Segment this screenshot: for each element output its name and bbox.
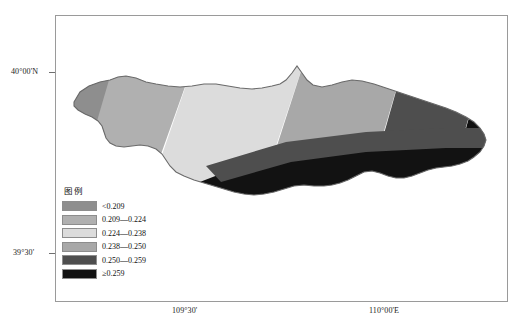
- legend-swatch-2: [62, 215, 97, 225]
- legend-swatch-5: [62, 255, 97, 265]
- legend-item: <0.209: [62, 200, 170, 212]
- legend-label-6: ≥0.259: [102, 269, 124, 278]
- legend-swatch-3: [62, 228, 97, 238]
- legend-swatch-6: [62, 269, 97, 279]
- legend-swatch-4: [62, 242, 97, 252]
- legend-label-4: 0.238—0.250: [102, 242, 146, 251]
- legend-item: ≥0.259: [62, 268, 170, 280]
- legend-item: 0.250—0.259: [62, 254, 170, 266]
- legend-label-1: <0.209: [102, 202, 125, 211]
- legend-item: 0.238—0.250: [62, 241, 170, 253]
- legend-item: 0.209—0.224: [62, 214, 170, 226]
- legend-label-3: 0.224—0.238: [102, 229, 146, 238]
- legend-item: 0.224—0.238: [62, 227, 170, 239]
- legend-label-5: 0.250—0.259: [102, 256, 146, 265]
- longitude-label-11000: 110°00'E: [369, 306, 399, 315]
- longitude-label-10930: 109°30': [172, 306, 197, 315]
- map-legend: 图例 <0.209 0.209—0.224 0.224—0.238 0.238—…: [62, 184, 170, 281]
- figure-canvas: 40°00'N 39°30' 109°30' 110°00'E: [0, 0, 530, 336]
- legend-label-2: 0.209—0.224: [102, 215, 146, 224]
- latitude-label-3930: 39°30': [13, 248, 34, 257]
- legend-title: 图例: [64, 184, 170, 196]
- legend-swatch-1: [62, 201, 97, 211]
- latitude-label-40: 40°00'N: [11, 67, 38, 76]
